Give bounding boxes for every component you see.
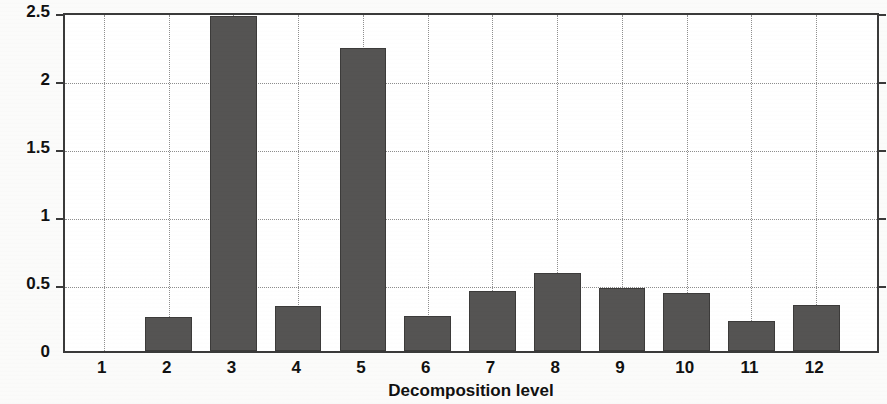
bar: [145, 317, 192, 351]
bar: [210, 16, 257, 351]
y-axis-tick: [56, 218, 65, 220]
x-axis-tick-label: 9: [590, 358, 650, 378]
bar: [275, 306, 322, 351]
x-axis-tick-label: 8: [525, 358, 585, 378]
gridline-horizontal: [65, 151, 877, 152]
gridline-horizontal: [65, 287, 877, 288]
y-axis-tick-label: 1.5: [26, 138, 50, 158]
gridline-vertical: [428, 15, 429, 351]
gridline-vertical: [104, 15, 105, 351]
x-axis-tick-label: 3: [201, 358, 261, 378]
x-axis-tick-label: 11: [719, 358, 779, 378]
y-axis-tick-right: [877, 82, 886, 84]
y-axis-tick: [56, 82, 65, 84]
gridline-vertical: [169, 15, 170, 351]
bar: [599, 288, 646, 351]
y-axis-tick-right: [877, 286, 886, 288]
y-axis-tick-label: 0.5: [26, 274, 50, 294]
x-axis-tick-label: 2: [137, 358, 197, 378]
gridline-horizontal: [65, 219, 877, 220]
gridline-horizontal: [65, 83, 877, 84]
y-axis-tick-label: 0: [41, 342, 50, 362]
y-axis-title: Principal components: [0, 0, 26, 26]
y-axis-tick-label: 1: [41, 206, 50, 226]
y-axis-tick-label: 2.5: [26, 2, 50, 22]
x-axis-title: Decomposition level: [63, 381, 879, 401]
y-axis-tick: [56, 14, 65, 16]
x-axis-tick-label: 1: [72, 358, 132, 378]
y-axis-tick: [56, 286, 65, 288]
x-axis-tick-label: 6: [396, 358, 456, 378]
plot-area: [63, 13, 879, 353]
x-axis-tick-label: 4: [266, 358, 326, 378]
y-axis-title-text: Principal components: [0, 0, 26, 26]
gridline-vertical: [298, 15, 299, 351]
bar: [728, 321, 775, 351]
x-axis-tick-label: 7: [460, 358, 520, 378]
x-axis-tick-label: 5: [331, 358, 391, 378]
figure-canvas: Principal components 00.511.522.5 123456…: [0, 0, 887, 404]
bar: [663, 293, 710, 351]
y-axis-tick-right: [877, 218, 886, 220]
bar: [404, 316, 451, 351]
y-axis-tick: [56, 150, 65, 152]
y-axis-tick-label: 2: [41, 70, 50, 90]
y-axis-tick-right: [877, 150, 886, 152]
bar: [534, 273, 581, 351]
bar: [340, 48, 387, 351]
x-axis-tick-label: 10: [655, 358, 715, 378]
gridline-vertical: [816, 15, 817, 351]
bar: [469, 291, 516, 351]
x-axis-tick-label: 12: [784, 358, 844, 378]
y-axis-tick-right: [877, 14, 886, 16]
bar: [793, 305, 840, 351]
gridline-vertical: [751, 15, 752, 351]
